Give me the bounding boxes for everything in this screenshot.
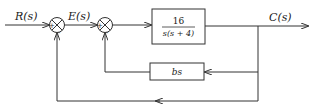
svg-text:−: −	[55, 29, 61, 37]
svg-text:−: −	[103, 29, 109, 37]
input-label: R(s)	[14, 10, 38, 23]
block-diagram: R(s) + − E(s) + − 16 s(s + 4)	[0, 0, 317, 112]
output-label: C(s)	[269, 11, 292, 24]
feedback-block: bs	[150, 63, 204, 80]
forward-block-denominator: s(s + 4)	[163, 29, 194, 38]
inner-feedback-out-line	[105, 34, 150, 73]
outer-feedback-return-line	[57, 34, 160, 102]
error-label: E(s)	[67, 10, 90, 23]
forward-block: 16 s(s + 4)	[152, 9, 205, 44]
forward-block-numerator: 16	[173, 16, 185, 26]
feedback-block-label: bs	[172, 67, 183, 77]
